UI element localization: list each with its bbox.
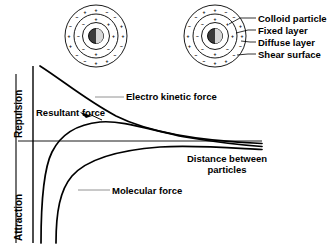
curve-resultant-force	[41, 122, 262, 243]
svg-text:–: –	[82, 46, 85, 52]
svg-text:+: +	[214, 60, 217, 66]
callout-shear-surface: Shear surface	[258, 49, 321, 60]
svg-text:+: +	[225, 58, 228, 64]
colloid-particle-left: + – + – + – + – – + – + – + – + + +	[65, 5, 127, 67]
curve-label-resultant-force: Resultant force	[36, 107, 105, 118]
callout-colloid-particle: Colloid particle	[258, 13, 327, 24]
svg-text:+: +	[214, 16, 217, 22]
colloid-core-highlight-left	[96, 29, 103, 44]
y-axis-attraction-label: Attraction	[13, 194, 24, 241]
leader-diffuse-layer	[241, 41, 256, 42]
svg-text:+: +	[120, 23, 123, 29]
svg-text:+: +	[69, 43, 72, 49]
x-axis-label-line1: Distance between	[172, 153, 282, 164]
svg-text:–: –	[106, 9, 109, 15]
svg-text:–: –	[226, 46, 229, 52]
svg-text:–: –	[188, 23, 191, 29]
svg-text:+: +	[84, 9, 87, 15]
svg-text:+: +	[68, 33, 71, 39]
svg-text:–: –	[76, 14, 79, 20]
svg-text:–: –	[239, 43, 242, 49]
svg-text:–: –	[120, 43, 123, 49]
curve-label-electro-kinetic-force: Electro kinetic force	[126, 91, 217, 102]
svg-text:+: +	[95, 7, 98, 13]
svg-text:–: –	[107, 46, 110, 52]
svg-text:–: –	[82, 21, 85, 27]
curve-electro-kinetic-force	[40, 66, 262, 144]
svg-text:–: –	[195, 14, 198, 20]
svg-text:+: +	[241, 33, 244, 39]
colloid-particle-right: + – + – + – + – – + – + – + – + + + +	[184, 5, 246, 67]
svg-text:+: +	[122, 33, 125, 39]
callout-diffuse-layer: Diffuse layer	[258, 37, 315, 48]
callout-fixed-layer: Fixed layer	[258, 25, 308, 36]
svg-text:–: –	[77, 33, 80, 39]
curve-label-molecular-force: Molecular force	[112, 185, 182, 196]
svg-text:–: –	[195, 52, 198, 58]
svg-text:–: –	[225, 9, 228, 15]
svg-text:+: +	[95, 16, 98, 22]
svg-text:–: –	[84, 58, 87, 64]
y-axis-repulsion-label: Repulsion	[13, 90, 24, 138]
svg-text:–: –	[233, 14, 236, 20]
svg-text:–: –	[201, 21, 204, 27]
svg-text:–: –	[201, 46, 204, 52]
svg-text:+: +	[214, 51, 217, 57]
svg-text:+: +	[231, 33, 234, 39]
svg-text:–: –	[114, 52, 117, 58]
figure-root: + – + – + – + – – + – + – + – + + +	[0, 0, 327, 247]
svg-text:+: +	[106, 58, 109, 64]
svg-text:+: +	[95, 60, 98, 66]
svg-text:+: +	[239, 23, 242, 29]
svg-text:–: –	[76, 52, 79, 58]
svg-text:+: +	[203, 9, 206, 15]
svg-text:+: +	[112, 33, 115, 39]
svg-text:+: +	[107, 21, 110, 27]
svg-text:–: –	[196, 33, 199, 39]
colloid-core-highlight-right	[215, 29, 222, 44]
svg-text:–: –	[114, 14, 117, 20]
svg-text:–: –	[69, 23, 72, 29]
x-axis-label-line2: particles	[172, 164, 282, 175]
svg-text:+: +	[214, 7, 217, 13]
svg-text:+: +	[187, 33, 190, 39]
svg-text:+: +	[188, 43, 191, 49]
svg-text:–: –	[233, 52, 236, 58]
svg-text:+: +	[95, 51, 98, 57]
svg-text:–: –	[203, 58, 206, 64]
svg-text:+: +	[226, 21, 229, 27]
